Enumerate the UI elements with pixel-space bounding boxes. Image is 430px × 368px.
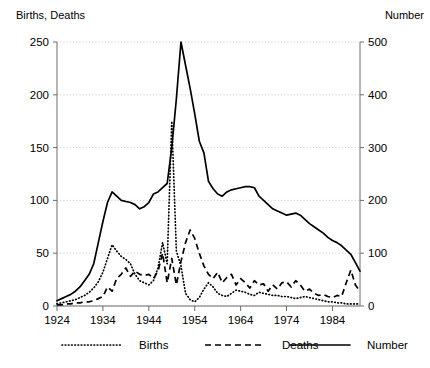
y-tick-label: 50 bbox=[36, 247, 49, 259]
y-axis-ticks: 050100150200250 bbox=[30, 36, 57, 312]
x-tick-label: 1964 bbox=[228, 314, 254, 326]
x-tick-label: 1974 bbox=[274, 314, 300, 326]
y-tick-label: 100 bbox=[30, 194, 49, 206]
x-axis-ticks: 1924193419441954196419741984 bbox=[44, 306, 346, 326]
y-tick-label: 250 bbox=[30, 36, 49, 48]
y2-tick-label: 400 bbox=[368, 89, 387, 101]
y2-axis-ticks: 0100200300400500 bbox=[360, 36, 387, 312]
chart-container: Births, Deaths Number 050100150200250 01… bbox=[0, 0, 430, 368]
series-line-deaths bbox=[57, 230, 360, 305]
x-tick-label: 1954 bbox=[182, 314, 208, 326]
y-tick-label: 200 bbox=[30, 89, 49, 101]
x-tick-label: 1944 bbox=[136, 314, 162, 326]
y2-tick-label: 500 bbox=[368, 36, 387, 48]
series-line-number bbox=[57, 42, 360, 301]
line-chart: Births, Deaths Number 050100150200250 01… bbox=[0, 0, 430, 368]
y2-tick-label: 200 bbox=[368, 194, 387, 206]
y2-tick-label: 0 bbox=[368, 300, 374, 312]
y2-axis-title: Number bbox=[385, 9, 424, 21]
data-series-group bbox=[57, 42, 360, 305]
x-tick-label: 1924 bbox=[44, 314, 70, 326]
y2-tick-label: 300 bbox=[368, 142, 387, 154]
series-line-births bbox=[57, 121, 360, 304]
x-tick-label: 1984 bbox=[320, 314, 346, 326]
gridlines bbox=[57, 42, 360, 306]
y2-tick-label: 100 bbox=[368, 247, 387, 259]
y-axis-title: Births, Deaths bbox=[16, 9, 86, 21]
chart-legend: BirthsDeathsNumber bbox=[62, 339, 408, 351]
legend-label-births: Births bbox=[139, 339, 169, 351]
x-tick-label: 1934 bbox=[90, 314, 116, 326]
y-tick-label: 150 bbox=[30, 142, 49, 154]
y-tick-label: 0 bbox=[43, 300, 49, 312]
legend-label-number: Number bbox=[367, 339, 408, 351]
